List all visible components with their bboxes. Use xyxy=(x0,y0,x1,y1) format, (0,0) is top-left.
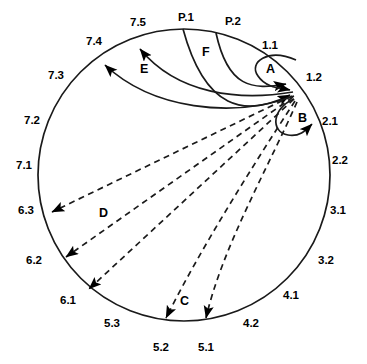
label-2-1: 2.1 xyxy=(322,116,338,128)
label-arc-F: F xyxy=(202,46,210,59)
label-arc-B: B xyxy=(298,112,307,125)
ray-C-to-5-2 xyxy=(166,101,295,318)
label-7-1: 7.1 xyxy=(16,160,32,172)
label-6-2: 6.2 xyxy=(26,255,42,267)
label-7-4: 7.4 xyxy=(86,36,102,48)
label-7-5: 7.5 xyxy=(130,17,146,29)
label-7-3: 7.3 xyxy=(48,70,64,82)
label-arc-A: A xyxy=(266,63,275,76)
label-2-2: 2.2 xyxy=(332,155,348,167)
label-4-1: 4.1 xyxy=(283,290,299,302)
label-1-2: 1.2 xyxy=(306,72,322,84)
diagram-canvas xyxy=(0,0,367,364)
label-7-2: 7.2 xyxy=(24,115,40,127)
label-arc-C: C xyxy=(180,295,189,308)
label-3-2: 3.2 xyxy=(318,255,334,267)
arc-group-C xyxy=(166,101,297,318)
arc-group-D xyxy=(52,96,294,289)
label-1-1: 1.1 xyxy=(262,40,278,52)
ray-D-to-6-1 xyxy=(89,99,294,289)
label-3-1: 3.1 xyxy=(330,205,346,217)
label-5-2: 5.2 xyxy=(153,342,169,354)
label-5-3: 5.3 xyxy=(104,318,120,330)
label-arc-E: E xyxy=(140,63,148,76)
label-P2: P.2 xyxy=(225,16,241,28)
circular-sector-diagram: P.1 P.2 7.5 7.4 7.3 7.2 7.1 6.3 6.2 6.1 … xyxy=(0,0,367,364)
label-4-2: 4.2 xyxy=(243,318,259,330)
label-5-1: 5.1 xyxy=(198,342,214,354)
ray-D-to-6-3 xyxy=(52,96,292,212)
ray-D-to-6-2 xyxy=(66,97,293,257)
label-6-3: 6.3 xyxy=(18,205,34,217)
main-circle xyxy=(38,29,330,321)
label-P1: P.1 xyxy=(178,12,194,24)
label-6-1: 6.1 xyxy=(60,295,76,307)
label-arc-D: D xyxy=(99,207,108,220)
